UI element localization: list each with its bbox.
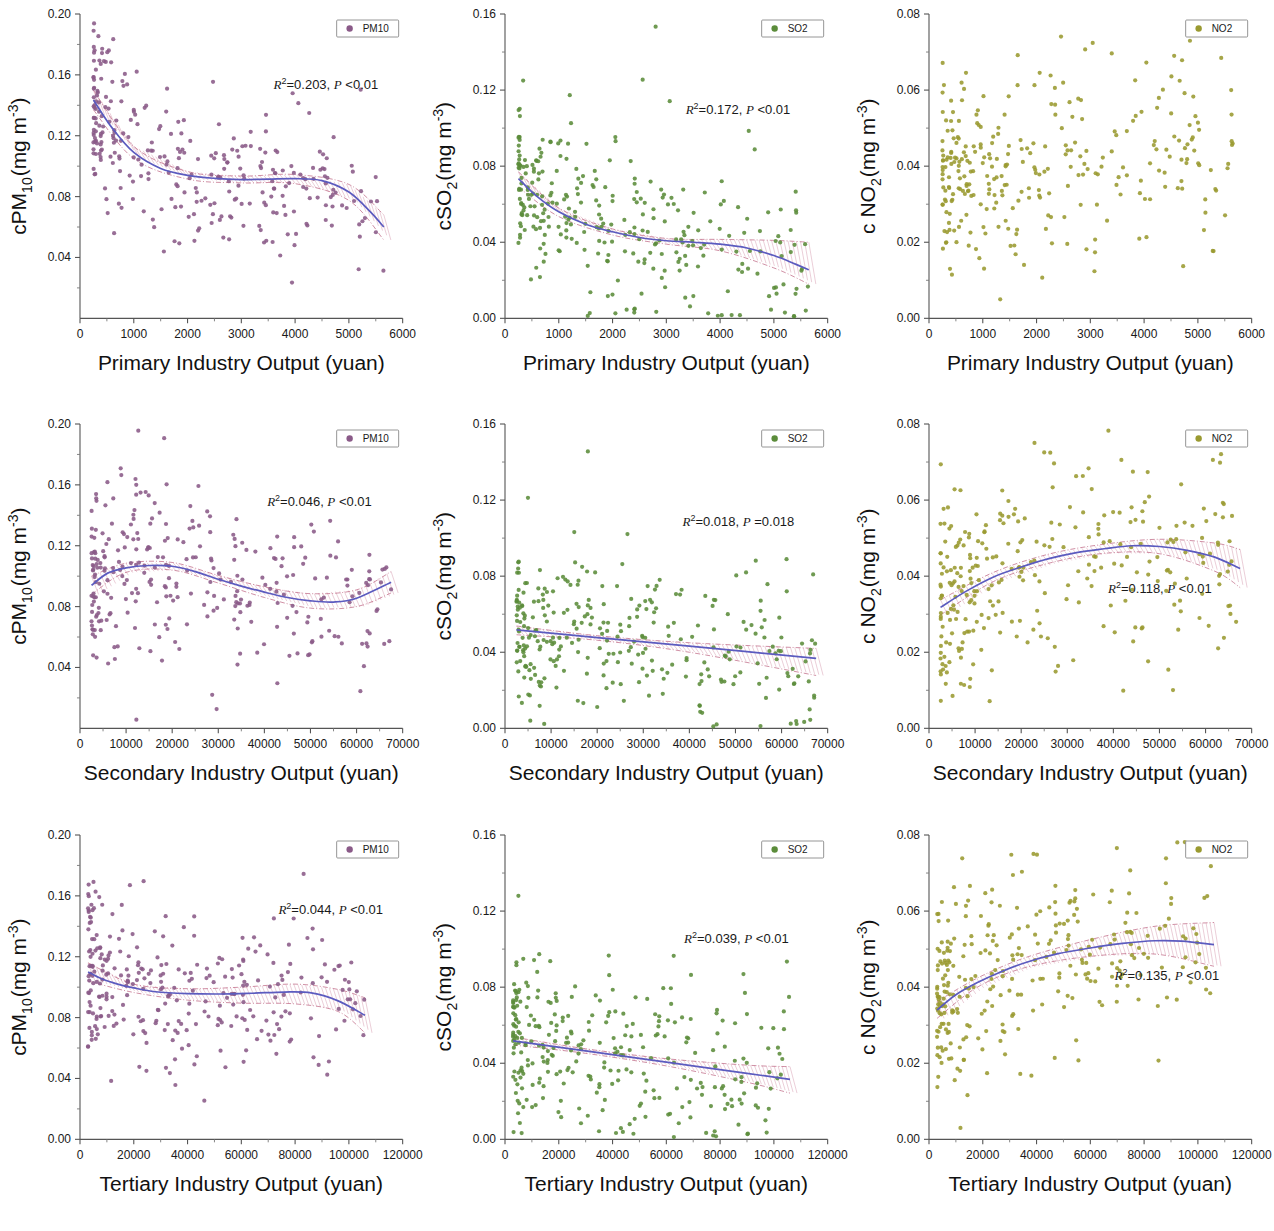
x-axis-title: Secondary Industry Output (yuan) — [84, 762, 399, 785]
ci-upper-line — [93, 90, 383, 215]
y-tick-label: 0.04 — [897, 980, 921, 994]
x-tick-label: 3000 — [1077, 327, 1104, 341]
y-tick-label: 0.12 — [472, 493, 496, 507]
y-tick-label: 0.12 — [48, 129, 72, 143]
axes: 0.000.020.040.060.0801000200030004000500… — [897, 7, 1266, 341]
y-axis-title: cPM10(mg m-3) — [5, 508, 35, 645]
scatter-panel-so2-tertiary: 0.000.040.080.120.1602000040000600008000… — [425, 821, 850, 1231]
x-tick-label: 50000 — [718, 738, 752, 752]
ci-lower-line — [88, 981, 365, 1033]
x-tick-label: 60000 — [340, 738, 374, 752]
legend-pm10[interactable]: PM10 — [337, 430, 399, 447]
legend-marker — [771, 25, 777, 31]
legend-pm10[interactable]: PM10 — [337, 20, 399, 37]
legend-no2[interactable]: NO2 — [1186, 430, 1248, 447]
figure-root: 0.040.080.120.160.2001000200030004000500… — [0, 0, 1274, 1231]
legend-label: PM10 — [363, 23, 390, 34]
x-tick-label: 120000 — [807, 1148, 847, 1162]
y-tick-label: 0.04 — [48, 250, 72, 264]
legend-no2[interactable]: NO2 — [1186, 841, 1248, 858]
y-tick-label: 0.00 — [472, 722, 496, 736]
legend-marker — [346, 846, 352, 852]
x-tick-label: 4000 — [706, 327, 733, 341]
x-tick-label: 2000 — [174, 327, 201, 341]
x-tick-label: 0 — [926, 1148, 933, 1162]
legend-marker — [1196, 25, 1202, 31]
x-axis-title: Tertiary Industry Output (yuan) — [949, 1172, 1232, 1195]
x-tick-label: 5000 — [1185, 327, 1212, 341]
scatter-panel-pm10-secondary: 0.040.080.120.160.2001000020000300004000… — [0, 410, 425, 820]
scatter-points — [939, 429, 1239, 704]
legend-label: NO2 — [1212, 23, 1233, 34]
x-tick-label: 80000 — [1128, 1148, 1162, 1162]
x-tick-label: 40000 — [596, 1148, 630, 1162]
scatter-panel-so2-secondary: 0.000.040.080.120.1601000020000300004000… — [425, 410, 850, 820]
scatter-panel-no2-secondary: 0.000.020.040.060.0801000020000300004000… — [849, 410, 1274, 820]
ci-lower-line — [513, 1045, 790, 1093]
y-tick-label: 0.00 — [472, 311, 496, 325]
legend-label: SO2 — [787, 433, 807, 444]
legend-pm10[interactable]: PM10 — [337, 841, 399, 858]
stat-annotation: R2=0.203, P <0.01 — [273, 76, 379, 92]
y-tick-label: 0.16 — [48, 889, 72, 903]
y-tick-label: 0.08 — [897, 7, 921, 21]
x-tick-label: 3000 — [228, 327, 255, 341]
y-tick-label: 0.12 — [48, 949, 72, 963]
x-tick-label: 80000 — [703, 1148, 737, 1162]
ci-lower-line — [937, 953, 1214, 1018]
y-tick-label: 0.08 — [472, 980, 496, 994]
x-axis-title: Secondary Industry Output (yuan) — [933, 762, 1248, 785]
x-tick-label: 20000 — [156, 738, 190, 752]
y-axis-title: cSO2(mg m-3) — [430, 102, 460, 230]
x-tick-label: 60000 — [1189, 738, 1223, 752]
legend-so2[interactable]: SO2 — [761, 430, 823, 447]
scatter-points — [935, 840, 1213, 1130]
x-tick-label: 70000 — [811, 738, 845, 752]
x-tick-label: 120000 — [383, 1148, 423, 1162]
x-axis-title: Primary Industry Output (yuan) — [523, 351, 810, 374]
legend-so2[interactable]: SO2 — [761, 20, 823, 37]
y-tick-label: 0.04 — [897, 569, 921, 583]
y-axis-title: cSO2(mg m-3) — [430, 512, 460, 640]
x-tick-label: 70000 — [1235, 738, 1269, 752]
stat-annotation: R2=0.046, P <0.01 — [266, 493, 372, 509]
regression-fit-line — [93, 100, 383, 227]
x-tick-label: 40000 — [248, 738, 282, 752]
x-tick-label: 60000 — [649, 1148, 683, 1162]
y-tick-label: 0.00 — [897, 1132, 921, 1146]
y-tick-label: 0.00 — [472, 1132, 496, 1146]
x-tick-label: 6000 — [1239, 327, 1266, 341]
y-tick-label: 0.00 — [897, 722, 921, 736]
confidence-band — [518, 172, 815, 284]
scatter-panel-no2-primary: 0.000.020.040.060.0801000200030004000500… — [849, 0, 1274, 410]
legend-label: NO2 — [1212, 433, 1233, 444]
x-axis-title: Tertiary Industry Output (yuan) — [524, 1172, 807, 1195]
x-tick-label: 2000 — [1024, 327, 1051, 341]
x-tick-label: 20000 — [117, 1148, 151, 1162]
x-tick-label: 20000 — [1005, 738, 1039, 752]
confidence-band — [93, 90, 390, 240]
x-tick-label: 80000 — [278, 1148, 312, 1162]
x-tick-label: 0 — [77, 1148, 84, 1162]
y-tick-label: 0.08 — [48, 190, 72, 204]
x-tick-label: 1000 — [120, 327, 147, 341]
y-tick-label: 0.12 — [472, 904, 496, 918]
x-tick-label: 30000 — [202, 738, 236, 752]
x-tick-label: 40000 — [672, 738, 706, 752]
x-tick-label: 3000 — [653, 327, 680, 341]
x-tick-label: 10000 — [959, 738, 993, 752]
x-tick-label: 0 — [926, 738, 933, 752]
x-tick-label: 40000 — [1020, 1148, 1054, 1162]
legend-no2[interactable]: NO2 — [1186, 20, 1248, 37]
legend-label: NO2 — [1212, 844, 1233, 855]
stat-annotation: R2=0.172, P <0.01 — [684, 101, 790, 117]
axes: 0.000.040.080.120.1601000200030004000500… — [472, 7, 841, 341]
ci-lower-line — [93, 110, 383, 240]
x-axis-title: Secondary Industry Output (yuan) — [509, 762, 824, 785]
regression-fit-line — [92, 566, 392, 603]
x-tick-label: 60000 — [1074, 1148, 1108, 1162]
legend-marker — [1196, 846, 1202, 852]
legend-so2[interactable]: SO2 — [761, 841, 823, 858]
x-tick-label: 30000 — [626, 738, 660, 752]
y-tick-label: 0.16 — [472, 7, 496, 21]
